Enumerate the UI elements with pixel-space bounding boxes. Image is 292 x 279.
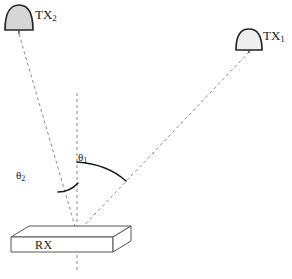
diagram-canvas: TX2 TX1 θ1 θ2 RX [0,0,292,279]
tx1-dome-icon [236,29,262,50]
rx-box-front-face [11,237,113,252]
theta2-label: θ2 [16,170,25,181]
tx2-label: TX2 [35,8,57,21]
rx-label: RX [35,239,52,251]
transmitter-1-antenna[interactable] [236,29,262,53]
angle-arc-theta2 [58,183,78,192]
receiver-box[interactable] [11,226,131,252]
theta1-label: θ1 [78,152,87,163]
rx-box-top-face [11,226,131,237]
tx2-dome-icon [5,5,33,30]
transmitter-2-antenna[interactable] [5,5,33,34]
angle-arc-group [58,162,126,192]
ray-tx2-to-rx [19,34,77,233]
tx1-label: TX1 [263,29,285,42]
ray-tx1-to-rx [77,52,249,233]
